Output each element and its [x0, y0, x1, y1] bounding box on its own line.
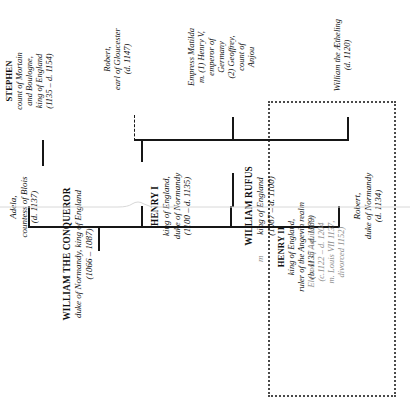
edge-to-robert-gloucester-dashed [134, 115, 135, 141]
node-line: divorced 1152) [336, 127, 346, 377]
node-line: king of England, [161, 153, 172, 259]
node-empress-matilda: Empress Matilda m. (1) Henry V, emperor … [186, 0, 256, 115]
node-line: duke of Normandy, king of England [73, 129, 84, 379]
node-henry-i: HENRY I king of England, duke of Normand… [150, 153, 193, 259]
node-name: WILLIAM RUFUS [244, 150, 255, 262]
node-line: (d. 1147) [122, 3, 132, 115]
node-line: (1066 – 1087) [84, 129, 95, 379]
edge-adela-to-stephen [42, 140, 44, 166]
node-line: emperor of [206, 0, 216, 115]
node-line: duke of Normandy [363, 145, 374, 267]
node-line: count of Mortain [14, 21, 24, 141]
node-line: earl of Gloucester [112, 3, 122, 115]
node-eleanor-of-aquitaine: Eleanor of Aquitaine (c.1122 – d. 1204 m… [306, 127, 346, 377]
node-name: William the Ætheling [332, 0, 342, 117]
node-line: (1100 – d. 1135) [182, 153, 193, 259]
node-william-the-aetheling: William the Ætheling (d. 1120) [332, 0, 352, 117]
node-name: Robert, [352, 145, 363, 267]
node-line: duke of Normandy [172, 153, 183, 259]
node-name: WILLIAM THE CONQUEROR [62, 129, 73, 379]
node-line: (2) Geoffrey, [226, 0, 236, 115]
node-line: (1087 – d. 1100) [266, 150, 277, 262]
node-line: count of [236, 0, 246, 115]
edge-to-william-rufus [230, 206, 232, 228]
node-name: HENRY II [276, 117, 286, 377]
edge-root-stem [98, 227, 100, 251]
node-name: Adela, [8, 153, 19, 261]
node-line: (c.1122 – d. 1204 [316, 127, 326, 377]
node-william-the-conqueror: WILLIAM THE CONQUEROR duke of Normandy, … [62, 129, 94, 379]
node-robert-earl-of-gloucester: Robert, earl of Gloucester (d. 1147) [102, 3, 132, 115]
node-line: ruler of the Angevin realm [296, 117, 306, 377]
node-william-rufus: WILLIAM RUFUS king of England (1087 – d.… [244, 150, 276, 262]
node-line: king of England, [286, 117, 296, 377]
node-line: m. (1) Henry V, [196, 0, 206, 115]
node-line: (d. 1137) [29, 153, 40, 261]
edge-to-empress-matilda [232, 117, 234, 141]
node-robert-duke-of-normandy: Robert, duke of Normandy (d. 1134) [352, 145, 384, 267]
node-name: HENRY I [150, 153, 161, 259]
node-line: m. Louis VII 1137, [326, 127, 336, 377]
node-name: Empress Matilda [186, 0, 196, 115]
edge-to-william-aetheling [347, 117, 349, 141]
node-line: countess of Blois [19, 153, 30, 261]
node-name: Eleanor of Aquitaine [306, 127, 316, 377]
node-adela-countess-of-blois: Adela, countess of Blois (d. 1137) [8, 153, 40, 261]
marriage-marker: m [255, 256, 265, 263]
node-line: (d. 1120) [342, 0, 352, 117]
node-line: Germany [216, 0, 226, 115]
node-line: Anjou [246, 0, 256, 115]
node-name: STEPHEN [4, 21, 14, 141]
node-line: (1135 – d. 1154) [44, 21, 54, 141]
edge-to-henry-i [141, 206, 143, 228]
node-line: and Boulogne, [24, 21, 34, 141]
genealogy-chart: WILLIAM THE CONQUEROR duke of Normandy, … [0, 0, 410, 407]
node-name: Robert, [102, 3, 112, 115]
edge-henry1-stem [141, 140, 143, 162]
node-line: (d. 1134) [373, 145, 384, 267]
edge-matilda-to-henry2 [232, 173, 234, 207]
node-stephen: STEPHEN count of Mortain and Boulogne, k… [4, 21, 54, 141]
node-line: king of England [255, 150, 266, 262]
node-line: king of England [34, 21, 44, 141]
